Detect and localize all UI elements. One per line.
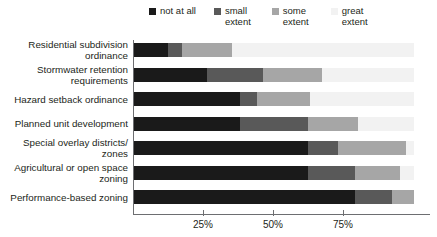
plot-area: 25%50%75% — [133, 40, 413, 215]
chart-legend: not at all small extent some extent grea… — [149, 6, 434, 34]
legend-item-small-extent[interactable]: small extent — [214, 6, 251, 27]
bar-segment-small-extent[interactable] — [207, 68, 263, 82]
legend-label-some-extent: some extent — [283, 6, 309, 27]
bar-segment-great-extent[interactable] — [400, 166, 414, 180]
legend-swatch-some-extent — [272, 8, 279, 15]
bar-row — [134, 92, 414, 106]
bar-segment-some-extent[interactable] — [355, 166, 400, 180]
bar-segment-great-extent[interactable] — [310, 92, 414, 106]
bar-segment-great-extent[interactable] — [406, 141, 414, 155]
bar-segment-small-extent[interactable] — [308, 141, 339, 155]
bar-segment-some-extent[interactable] — [392, 190, 414, 204]
bar-segment-not-at-all[interactable] — [134, 141, 308, 155]
category-label: Planned unit development — [0, 118, 128, 129]
legend-label-small-extent: small extent — [225, 6, 251, 27]
x-axis-tick-label: 25% — [193, 219, 213, 230]
legend-swatch-not-at-all — [149, 8, 156, 15]
category-label: Residential subdivision ordinance — [0, 39, 128, 61]
bar-row — [134, 190, 414, 204]
bar-row — [134, 141, 414, 155]
bar-segment-small-extent[interactable] — [240, 117, 307, 131]
bar-segment-not-at-all[interactable] — [134, 43, 168, 57]
bar-series-container — [134, 40, 414, 215]
bar-segment-not-at-all[interactable] — [134, 92, 240, 106]
x-axis-tick — [343, 210, 344, 216]
bar-row — [134, 117, 414, 131]
bar-segment-small-extent[interactable] — [355, 190, 391, 204]
bar-segment-small-extent[interactable] — [240, 92, 257, 106]
bar-segment-some-extent[interactable] — [257, 92, 310, 106]
x-axis-tick-label: 75% — [333, 219, 353, 230]
category-label: Hazard setback ordinance — [0, 94, 128, 105]
bar-segment-some-extent[interactable] — [263, 68, 322, 82]
bar-row — [134, 166, 414, 180]
x-axis-tick — [203, 210, 204, 216]
bar-segment-some-extent[interactable] — [182, 43, 232, 57]
bar-segment-not-at-all[interactable] — [134, 68, 207, 82]
bar-segment-great-extent[interactable] — [322, 68, 414, 82]
x-axis-tick-label: 50% — [263, 219, 283, 230]
bar-segment-small-extent[interactable] — [308, 166, 356, 180]
bar-row — [134, 68, 414, 82]
bar-segment-not-at-all[interactable] — [134, 166, 308, 180]
category-axis-labels: Residential subdivision ordinanceStormwa… — [0, 40, 128, 215]
legend-label-not-at-all: not at all — [160, 6, 196, 17]
bar-segment-small-extent[interactable] — [168, 43, 182, 57]
category-label: Agricultural or open space zoning — [0, 162, 128, 184]
category-label: Special overlay districts/ zones — [0, 137, 128, 159]
legend-item-great-extent[interactable]: great extent — [331, 6, 368, 27]
category-label: Performance-based zoning — [0, 192, 128, 203]
legend-item-some-extent[interactable]: some extent — [272, 6, 309, 27]
bar-segment-some-extent[interactable] — [308, 117, 358, 131]
bar-segment-not-at-all[interactable] — [134, 117, 240, 131]
legend-swatch-small-extent — [214, 8, 221, 15]
bar-segment-great-extent[interactable] — [232, 43, 414, 57]
bar-segment-not-at-all[interactable] — [134, 190, 355, 204]
bar-segment-great-extent[interactable] — [358, 117, 414, 131]
legend-item-not-at-all[interactable]: not at all — [149, 6, 196, 17]
bar-row — [134, 43, 414, 57]
legend-swatch-great-extent — [331, 8, 338, 15]
bar-segment-some-extent[interactable] — [338, 141, 405, 155]
legend-label-great-extent: great extent — [342, 6, 368, 27]
stacked-bar-chart: not at all small extent some extent grea… — [0, 0, 437, 237]
x-axis-tick — [273, 210, 274, 216]
category-label: Stormwater retention requirements — [0, 64, 128, 86]
